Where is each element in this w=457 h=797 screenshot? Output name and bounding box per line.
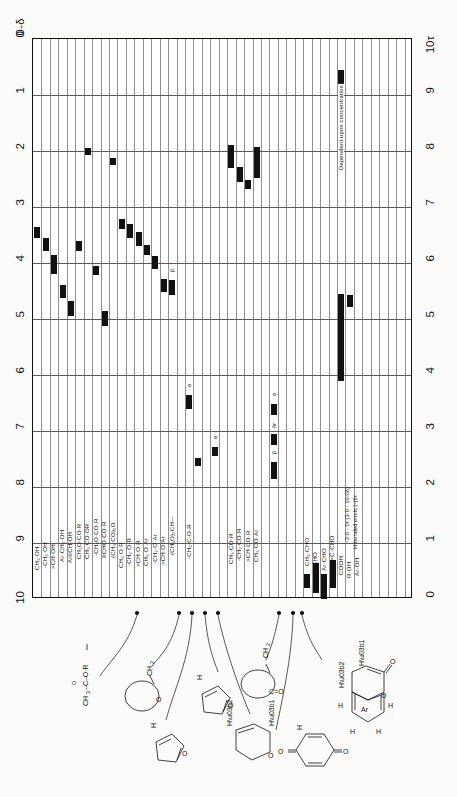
pyranone-halpha-label: H\u03b1	[268, 699, 275, 726]
coumarin-h3-label: H	[350, 728, 355, 735]
structure-coumarin: O O H\u03b1 H\u03b2 Ar H H H H	[338, 639, 396, 735]
bar-tag: α	[186, 384, 193, 387]
cooh-range-note: -3·0 - 0τ (3·0 - 10·0δ)	[344, 487, 350, 542]
right-tick-label: 2	[424, 479, 436, 485]
column-label-38: R·OH	[345, 561, 352, 577]
right-tick-label: 5	[424, 311, 436, 317]
shift-bar[interactable]	[271, 462, 277, 479]
right-tick-label: 10τ	[424, 36, 436, 53]
column-label-34: R·CHO	[311, 552, 318, 573]
shift-bar[interactable]	[161, 279, 167, 292]
right-tick-label: 3	[424, 423, 436, 429]
lactone-o-label: O	[156, 696, 162, 703]
shift-bar[interactable]	[212, 447, 218, 457]
shift-bar[interactable]	[304, 574, 310, 588]
column-label-9: ≡CHO·CO·R	[100, 521, 107, 558]
gridline-vertical	[379, 39, 380, 597]
left-tick-label: 2	[14, 143, 26, 149]
column-label-33: CH₃·CHO	[303, 537, 310, 565]
right-tick-label: 7	[424, 199, 436, 205]
coumarin-o-carbonyl-label: O	[390, 658, 396, 665]
structure-furan-lower: H O	[150, 723, 188, 762]
left-tick-label: 0	[14, 31, 26, 37]
shift-bar[interactable]	[110, 158, 116, 165]
shift-bar[interactable]	[271, 434, 277, 445]
bar-tag: α	[212, 436, 219, 439]
column-label-19: -CH₂-C-O-R	[185, 524, 192, 559]
left-tick-label: 8	[14, 479, 26, 485]
column-label-14: CH₃·O·Ar	[142, 538, 149, 566]
left-tick-label: 6	[14, 367, 26, 373]
column-label-10: (CH₃·CO)₂O	[109, 523, 116, 559]
shift-bar[interactable]	[43, 238, 49, 251]
column-label-36: C=C-CHO	[328, 535, 335, 564]
quinone-o1-label: O	[278, 748, 284, 755]
gridline-vertical	[109, 39, 110, 597]
gridline-horizontal	[33, 487, 411, 488]
shift-bar[interactable]	[34, 227, 40, 238]
right-tick-label: 4	[424, 367, 436, 373]
shift-bar[interactable]	[237, 167, 243, 182]
shift-bar[interactable]	[321, 574, 327, 599]
svg-text:–C–O·R: –C–O·R	[82, 664, 89, 690]
column-label-27: CH₃·CO·Ar	[252, 529, 259, 561]
gridline-vertical	[134, 39, 135, 597]
structure-diagrams: CH 3 –C–O·R O CH 2 O H O H O H\u03b2 H\u…	[0, 598, 457, 797]
gridline-vertical	[295, 39, 296, 597]
column-label-11: CH₃·O·R	[117, 542, 124, 568]
gridline-vertical	[92, 39, 93, 597]
nmr-shift-chart[interactable]: βαααArβDependent upon concentration-3·0 …	[32, 38, 412, 598]
gridline-vertical	[75, 39, 76, 597]
shift-bar[interactable]	[347, 295, 353, 306]
right-tick-label: 8	[424, 143, 436, 149]
bar-tag: α	[271, 393, 278, 396]
shift-bar[interactable]	[102, 311, 108, 326]
shift-bar[interactable]	[169, 280, 175, 296]
shift-bar[interactable]	[338, 294, 344, 381]
gridline-vertical	[41, 39, 42, 597]
gridline-vertical	[253, 39, 254, 597]
shift-bar[interactable]	[271, 404, 277, 415]
column-label-26: >CH·CO·R	[244, 531, 251, 563]
gridline-vertical	[202, 39, 203, 597]
right-tick-label: 9	[424, 87, 436, 93]
gridline-vertical	[126, 39, 127, 597]
shift-bar[interactable]	[228, 145, 234, 167]
shift-bar[interactable]	[195, 458, 201, 466]
shift-bar[interactable]	[51, 255, 57, 275]
concentration-note: Dependent upon concentration	[338, 84, 344, 171]
gridline-vertical	[185, 39, 186, 597]
shift-bar[interactable]	[68, 301, 74, 316]
shift-bar[interactable]	[127, 224, 133, 238]
column-label-37: COOH	[337, 556, 344, 575]
shift-bar[interactable]	[136, 232, 142, 246]
column-label-1: CH₃·OH	[33, 547, 40, 571]
quinone-h-label: H	[296, 725, 303, 730]
gridline-vertical	[329, 39, 330, 597]
shift-bar[interactable]	[152, 256, 158, 268]
shift-bar[interactable]	[186, 395, 192, 409]
coumarin-ar-label: Ar	[361, 706, 369, 713]
left-tick-label: 9	[14, 535, 26, 541]
gridline-horizontal	[33, 263, 411, 264]
shift-bar[interactable]	[93, 266, 99, 276]
column-label-16: >CH·O·Ar	[159, 536, 166, 565]
shift-bar[interactable]	[254, 147, 260, 178]
right-tick-label: 6	[424, 255, 436, 261]
shift-bar[interactable]	[119, 219, 125, 229]
furan-lower-h-label: H	[150, 723, 157, 728]
shift-bar[interactable]	[245, 180, 251, 189]
gridline-vertical	[396, 39, 397, 597]
svg-text:2: 2	[149, 661, 155, 664]
left-tick-label: 3	[14, 199, 26, 205]
gridline-vertical	[210, 39, 211, 597]
shift-bar[interactable]	[76, 241, 82, 251]
right-tick-label: 0	[424, 591, 436, 597]
column-label-6: CH₃O·CO·R	[75, 523, 82, 558]
structure-cycloketone: CH 2 C=O	[241, 643, 284, 698]
shift-bar[interactable]	[85, 148, 91, 155]
gridline-vertical	[236, 39, 237, 597]
shift-bar[interactable]	[60, 285, 66, 297]
column-label-7: CH₃·CO·OR	[83, 523, 90, 558]
shift-bar[interactable]	[144, 245, 150, 255]
